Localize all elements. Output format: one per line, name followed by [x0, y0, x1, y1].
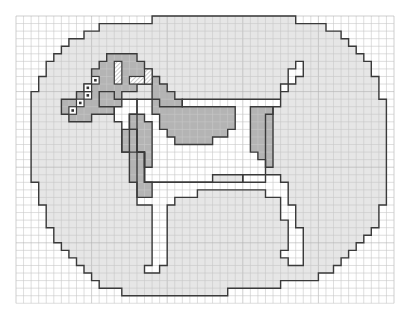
hatched-cell	[129, 76, 144, 84]
hatched-cell	[114, 61, 122, 84]
hatched-cell	[145, 69, 153, 84]
pattern-chart	[0, 0, 415, 321]
dog-shapes	[31, 16, 386, 296]
